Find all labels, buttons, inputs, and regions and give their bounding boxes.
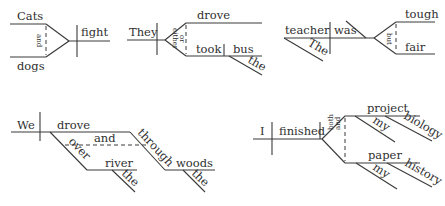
fork-line bbox=[322, 139, 345, 163]
fork-line bbox=[46, 24, 69, 41]
word-and: and bbox=[94, 131, 116, 145]
word-and: and bbox=[35, 34, 43, 48]
word-they: They bbox=[129, 25, 158, 39]
word-i: I bbox=[260, 124, 265, 138]
word-but: but bbox=[385, 33, 393, 45]
word-the: The bbox=[306, 35, 332, 58]
word-drove: drove bbox=[197, 8, 230, 22]
sentence-diagrams: Cats dogs and fight They drove took bus … bbox=[0, 0, 445, 206]
word-woods: woods bbox=[176, 156, 213, 170]
word-over: over bbox=[66, 134, 94, 163]
word-tough: tough bbox=[405, 7, 439, 21]
diagram-i-finished-project-paper: I finished project paper my biology my h… bbox=[253, 101, 445, 189]
word-project: project bbox=[367, 101, 409, 115]
diagram-cats-and-dogs-fight: Cats dogs and fight bbox=[10, 9, 110, 73]
word-or: or bbox=[178, 35, 186, 43]
word-and: and bbox=[334, 116, 342, 130]
word-teacher: teacher bbox=[285, 23, 330, 37]
word-we: We bbox=[17, 118, 35, 132]
word-either: either bbox=[171, 28, 179, 50]
word-fair: fair bbox=[405, 40, 426, 54]
word-fight: fight bbox=[81, 25, 108, 39]
word-finished: finished bbox=[279, 124, 326, 138]
diagram-teacher-tough-but-fair: teacher The was tough fair but bbox=[284, 7, 439, 61]
word-took: took bbox=[196, 42, 222, 56]
word-was: was bbox=[334, 23, 357, 37]
word-cats: Cats bbox=[17, 9, 43, 23]
diagram-they-drove-or-took: They drove took bus the either or bbox=[127, 8, 269, 75]
fork-line bbox=[46, 41, 69, 57]
diagram-we-drove-over-through: We drove and over through river woods th… bbox=[11, 112, 215, 192]
word-through: through bbox=[135, 125, 177, 169]
word-paper: paper bbox=[368, 148, 402, 162]
word-drove: drove bbox=[57, 118, 90, 132]
word-biology: biology bbox=[402, 108, 445, 142]
word-dogs: dogs bbox=[17, 59, 45, 73]
